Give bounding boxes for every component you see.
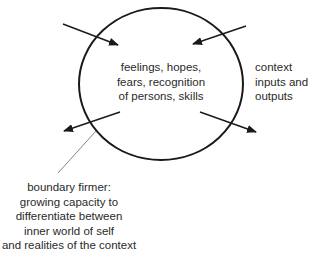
arrow-in-top-right [193, 26, 246, 44]
context-label-line: context [255, 60, 324, 75]
context-label-line: outputs [255, 89, 324, 104]
context-label-line: inputs and [255, 75, 324, 90]
inner-world-label-line: feelings, hopes, [100, 60, 222, 75]
boundary-label: boundary firmer: growing capacity to dif… [0, 180, 138, 253]
arrow-in-top-left [63, 24, 118, 45]
arrow-out-bottom-left [64, 112, 120, 131]
context-label: context inputs and outputs [255, 60, 324, 104]
boundary-label-line: boundary firmer: [0, 180, 138, 195]
boundary-leader-line [58, 131, 96, 173]
inner-world-label-line: of persons, skills [100, 89, 222, 104]
boundary-label-line: differentiate between [0, 209, 138, 224]
inner-world-label-line: fears, recognition [100, 75, 222, 90]
boundary-label-line: inner world of self [0, 224, 138, 239]
inner-world-label: feelings, hopes, fears, recognition of p… [100, 60, 222, 104]
boundary-label-line: growing capacity to [0, 195, 138, 210]
boundary-label-line: and realities of the context [0, 238, 138, 253]
